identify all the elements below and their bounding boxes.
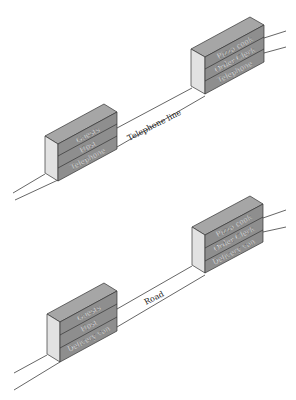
stack-side-face	[191, 49, 205, 94]
stack-side-face	[47, 314, 60, 362]
stack-side-face	[45, 136, 58, 181]
left-line-upper	[13, 174, 45, 193]
right-protocol-stack: Pizza cook Order Clerk Telephone	[191, 17, 264, 94]
link-label: Telephone line	[126, 108, 183, 143]
left-line-lower	[15, 180, 58, 200]
left-protocol-stack: Guests Host Delivery van	[47, 283, 117, 362]
right-protocol-stack: Pizza cook Order Clerk Delivery van	[192, 196, 263, 273]
right-line-upper	[263, 210, 286, 218]
stack-side-face	[192, 227, 205, 273]
right-line-upper	[264, 31, 286, 38]
left-line-lower	[14, 362, 60, 390]
top-diagram: Telephone line Guests Host Telephone Piz…	[13, 17, 286, 200]
left-line-upper	[14, 355, 47, 373]
bottom-diagram: Road Guests Host Delivery van Pizza cook…	[14, 196, 286, 390]
right-line-lower	[263, 227, 286, 232]
right-line-lower	[264, 47, 286, 53]
layered-communication-diagram: Telephone line Guests Host Telephone Piz…	[0, 0, 296, 400]
left-protocol-stack: Guests Host Telephone	[45, 104, 117, 181]
